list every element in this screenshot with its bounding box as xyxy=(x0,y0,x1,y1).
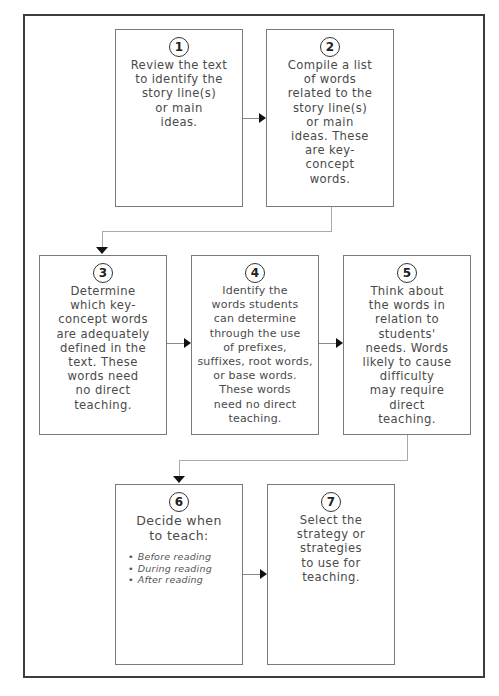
step-text: Compile a list of words related to the s… xyxy=(267,58,393,186)
timing-list: Before reading During reading After read… xyxy=(116,551,242,586)
timing-before: Before reading xyxy=(128,551,242,563)
connector-2-3-horizontal xyxy=(102,231,332,232)
arrow-right-icon xyxy=(259,113,266,123)
step-1-box: 1 Review the text to identify the story … xyxy=(115,29,243,207)
step-text: Think about the words in relation to stu… xyxy=(344,284,470,426)
step-text: Determine which key- concept words are a… xyxy=(40,284,166,412)
step-text: Select the strategy or strategies to use… xyxy=(268,513,394,584)
step-number-badge: 4 xyxy=(245,263,265,283)
arrow-right-icon xyxy=(336,338,343,348)
step-number-badge: 1 xyxy=(169,37,189,57)
step-number-badge: 3 xyxy=(93,263,113,283)
connector-2-3-vertical xyxy=(331,207,332,231)
step-number-badge: 5 xyxy=(397,263,417,283)
step-text: Decide when to teach: xyxy=(116,513,242,543)
arrow-right-icon xyxy=(184,338,191,348)
connector-6-7-line xyxy=(243,574,260,575)
step-text: Review the text to identify the story li… xyxy=(116,58,242,129)
arrow-right-icon xyxy=(260,569,267,579)
step-5-box: 5 Think about the words in relation to s… xyxy=(343,255,471,435)
arrow-down-icon xyxy=(173,476,185,483)
step-number-badge: 7 xyxy=(321,492,341,512)
step-6-box: 6 Decide when to teach: Before reading D… xyxy=(115,484,243,665)
step-number-badge: 2 xyxy=(320,37,340,57)
connector-5-6-horizontal xyxy=(179,460,408,461)
step-3-box: 3 Determine which key- concept words are… xyxy=(39,255,167,435)
step-7-box: 7 Select the strategy or strategies to u… xyxy=(267,484,395,665)
step-2-box: 2 Compile a list of words related to the… xyxy=(266,29,394,207)
connector-3-4-line xyxy=(167,343,184,344)
connector-5-6-vertical xyxy=(407,435,408,460)
connector-4-5-line xyxy=(319,343,336,344)
connector-1-2-line xyxy=(243,118,259,119)
arrow-down-icon xyxy=(96,247,108,254)
step-text: Identify the words students can determin… xyxy=(192,284,318,426)
timing-during: During reading xyxy=(128,563,242,575)
timing-after: After reading xyxy=(128,574,242,586)
step-number-badge: 6 xyxy=(169,492,189,512)
connector-2-3-drop xyxy=(102,231,103,248)
connector-5-6-drop xyxy=(179,460,180,477)
step-4-box: 4 Identify the words students can determ… xyxy=(191,255,319,435)
